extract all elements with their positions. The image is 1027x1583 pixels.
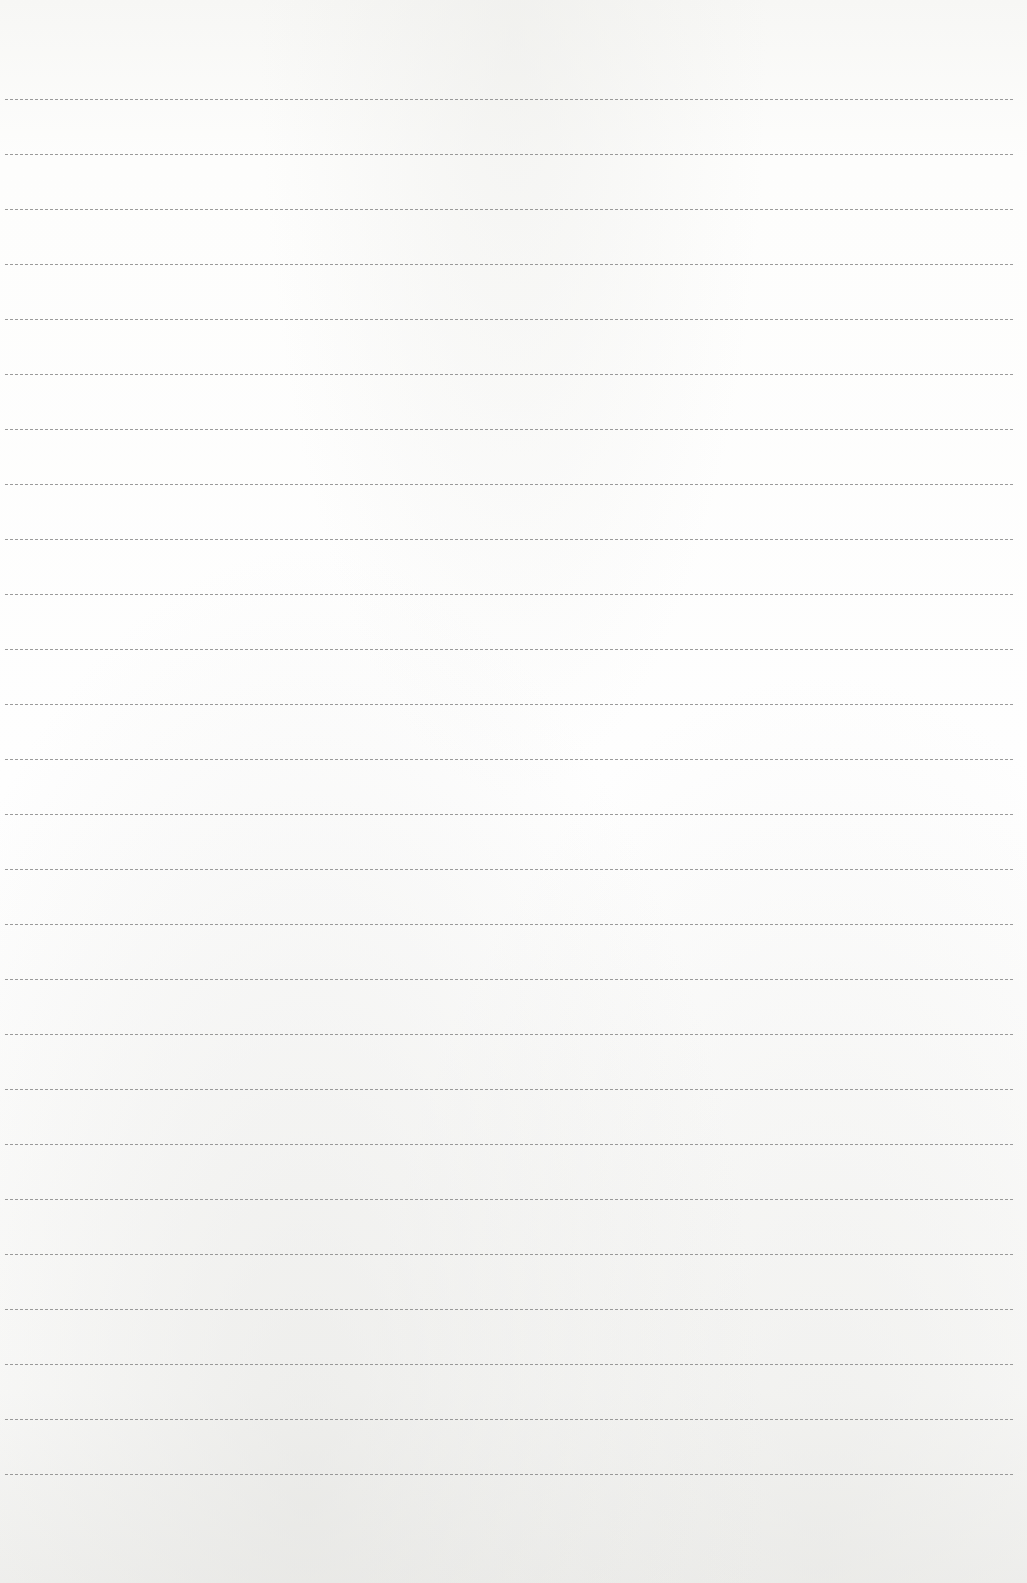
ruled-line	[5, 1364, 1013, 1365]
ruled-line	[5, 539, 1013, 540]
ruled-line	[5, 1419, 1013, 1420]
ruled-line	[5, 1144, 1013, 1145]
ruled-line	[5, 649, 1013, 650]
ruled-line	[5, 374, 1013, 375]
ruled-line	[5, 484, 1013, 485]
ruled-line	[5, 924, 1013, 925]
ruled-line	[5, 1254, 1013, 1255]
ruled-line	[5, 814, 1013, 815]
ruled-line	[5, 979, 1013, 980]
ruled-line	[5, 99, 1013, 100]
ruled-line	[5, 429, 1013, 430]
ruled-line	[5, 759, 1013, 760]
ruled-line	[5, 1474, 1013, 1475]
ruled-line	[5, 1309, 1013, 1310]
ruled-line	[5, 1034, 1013, 1035]
ruled-line	[5, 869, 1013, 870]
ruled-line	[5, 154, 1013, 155]
ruled-line	[5, 594, 1013, 595]
lined-paper-sheet	[0, 0, 1027, 1583]
ruled-line	[5, 704, 1013, 705]
ruled-line	[5, 209, 1013, 210]
ruled-line	[5, 319, 1013, 320]
ruled-line	[5, 1089, 1013, 1090]
ruled-line	[5, 1199, 1013, 1200]
ruled-line	[5, 264, 1013, 265]
